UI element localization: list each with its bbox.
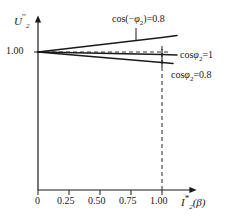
- series-label-low-suffix: =0.8: [193, 69, 211, 80]
- chart-figure: U′′2 1.00 0 0.25 0.50 0.75 1.00 I*2(β) c…: [0, 0, 228, 224]
- x-tick-label-025: 0.25: [57, 196, 75, 206]
- x-tick-label-100: 1.00: [150, 196, 168, 206]
- y-tick-label-100: 1.00: [6, 46, 24, 56]
- y-axis-title-sub: 2: [26, 22, 30, 30]
- series-label-cos-neg-phi2-08: cos(−φ2)=0.8: [112, 14, 165, 27]
- y-axis-title-prime: ′′: [22, 12, 26, 22]
- x-axis-title-arg: (β): [193, 196, 206, 208]
- x-axis-title: I*2(β): [181, 194, 205, 211]
- series-label-low-prefix: cos: [171, 69, 184, 80]
- chart-canvas: [0, 0, 228, 224]
- series-label-mid-suffix: =1: [202, 49, 213, 60]
- x-tick-label-075: 0.75: [119, 196, 137, 206]
- series-label-top-suffix: )=0.8: [143, 13, 164, 24]
- x-tick-label-050: 0.50: [88, 196, 106, 206]
- curve-cos-neg-phi2-08: [38, 36, 177, 53]
- series-label-cos-phi2-08: cosφ2=0.8: [171, 70, 212, 83]
- series-label-mid-prefix: cos: [180, 49, 193, 60]
- x-axis-title-prime: *: [185, 193, 190, 203]
- series-label-top-prefix: cos(−: [112, 13, 134, 24]
- y-axis-title: U′′2: [14, 13, 29, 30]
- x-tick-label-0: 0: [35, 196, 40, 206]
- y-axis-title-base: U: [14, 15, 22, 27]
- series-label-cos-phi2-1: cosφ2=1: [180, 50, 213, 63]
